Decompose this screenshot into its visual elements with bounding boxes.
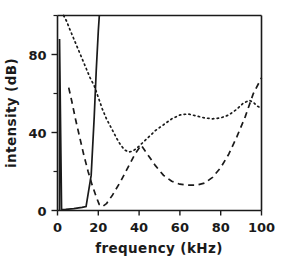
y-tick-label: 40 [28, 126, 46, 141]
chart-figure: 020406080100 04080 frequency (kHz) inten… [0, 0, 289, 270]
x-tick-label: 40 [130, 220, 148, 235]
y-axis-ticks [52, 55, 58, 211]
series-dashed-curve [69, 78, 262, 207]
y-axis-tick-labels: 04080 [28, 48, 46, 219]
chart-plot-area: 020406080100 04080 frequency (kHz) inten… [0, 0, 289, 270]
y-tick-label: 80 [28, 48, 46, 63]
x-tick-label: 60 [171, 220, 189, 235]
y-tick-label: 0 [37, 204, 46, 219]
x-axis-tick-labels: 020406080100 [53, 220, 275, 235]
x-tick-label: 0 [53, 220, 62, 235]
x-tick-label: 20 [89, 220, 107, 235]
data-series-group [60, 16, 262, 211]
x-tick-label: 100 [248, 220, 275, 235]
x-tick-label: 80 [212, 220, 230, 235]
x-axis-title: frequency (kHz) [95, 240, 223, 256]
y-axis-title: intensity (dB) [3, 58, 19, 168]
series-solid-curve [60, 16, 100, 211]
